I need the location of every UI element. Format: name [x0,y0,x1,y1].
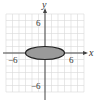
y-tick-neg: −6 [31,81,41,91]
x-axis-label: x [88,47,94,58]
ellipse-shape [26,47,65,60]
x-tick-pos: 6 [69,55,74,65]
x-tick-neg: −6 [8,55,18,65]
y-axis-label: y [41,0,47,10]
y-tick-pos: 6 [36,18,41,28]
x-axis-arrow-icon [83,51,88,55]
ellipse-graph: x y −6 6 6 −6 [0,0,95,104]
